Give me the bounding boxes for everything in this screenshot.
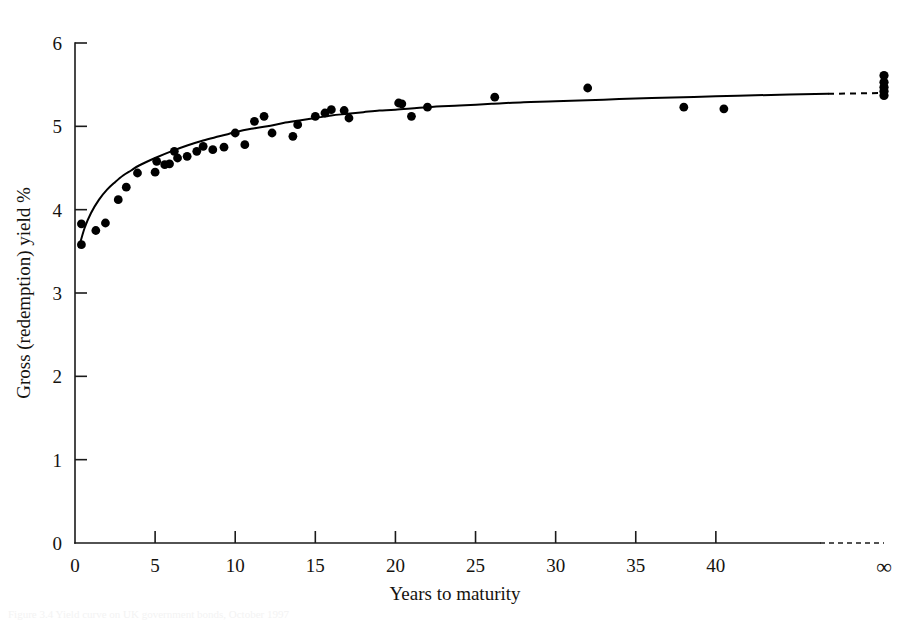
data-point: [114, 195, 123, 204]
data-point: [423, 103, 432, 112]
data-point: [122, 183, 131, 192]
data-point: [173, 154, 182, 163]
figure-container: 0123456 0510152025303540 ∞ Years to matu…: [0, 0, 917, 625]
data-point: [311, 112, 320, 121]
x-tick-label: 15: [306, 555, 325, 576]
data-point: [345, 114, 354, 123]
data-point: [133, 169, 142, 178]
data-point: [327, 105, 336, 114]
y-tick-group: 0123456: [53, 33, 88, 554]
x-tick-label: 0: [70, 555, 80, 576]
x-tick-label: 30: [546, 555, 565, 576]
y-tick-label: 3: [53, 283, 63, 304]
data-point: [288, 132, 297, 141]
data-point: [101, 219, 110, 228]
infinity-data-point-group: [879, 71, 888, 100]
data-point: [407, 112, 416, 121]
data-point: [583, 84, 592, 93]
y-tick-label: 0: [53, 533, 63, 554]
data-point: [152, 157, 161, 166]
data-point: [91, 226, 100, 235]
data-point: [77, 240, 86, 249]
x-axis-title: Years to maturity: [389, 583, 521, 604]
x-tick-label: 20: [386, 555, 405, 576]
fitted-curve-solid: [79, 94, 828, 247]
x-tick-label: 10: [226, 555, 245, 576]
yield-curve-chart: 0123456 0510152025303540 ∞ Years to matu…: [0, 0, 917, 625]
x-tick-label: 40: [706, 555, 725, 576]
data-point: [240, 140, 249, 149]
data-point: [268, 129, 277, 138]
y-tick-label: 6: [53, 33, 63, 54]
data-point: [260, 112, 269, 121]
data-point: [77, 219, 86, 228]
x-tick-label: 25: [466, 555, 485, 576]
x-axis-infinity-label: ∞: [876, 554, 892, 579]
data-point: [220, 143, 229, 152]
data-point: [490, 93, 499, 102]
data-point: [183, 152, 192, 161]
x-tick-label: 35: [626, 555, 645, 576]
data-point: [719, 104, 728, 113]
data-point: [250, 117, 259, 126]
data-point: [208, 145, 217, 154]
fitted-curve-dashed-tail: [828, 93, 884, 94]
axes-group: [75, 43, 884, 543]
y-tick-label: 1: [53, 450, 63, 471]
y-tick-label: 5: [53, 116, 63, 137]
data-point: [340, 106, 349, 115]
y-tick-label: 2: [53, 366, 63, 387]
x-tick-label: 5: [150, 555, 160, 576]
data-point: [151, 168, 160, 177]
y-tick-label: 4: [53, 200, 63, 221]
data-point: [199, 142, 208, 151]
data-point: [397, 99, 406, 108]
infinity-data-point: [879, 91, 888, 100]
partial-page-caption: Figure 3.4 Yield curve on UK government …: [8, 608, 608, 620]
x-tick-group: 0510152025303540: [70, 531, 725, 576]
y-axis-title: Gross (redemption) yield %: [13, 187, 35, 399]
data-point: [165, 159, 174, 168]
data-point: [231, 129, 240, 138]
data-point: [293, 120, 302, 129]
data-point: [679, 103, 688, 112]
